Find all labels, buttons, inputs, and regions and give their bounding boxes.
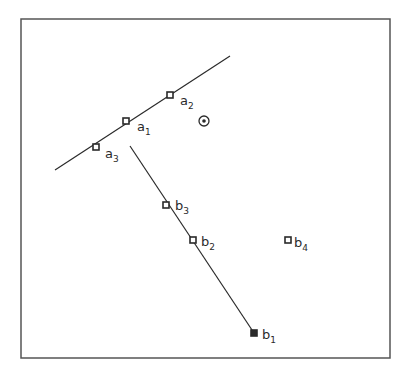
- point-label: a1: [137, 119, 151, 137]
- point-b1: b1: [251, 327, 276, 345]
- point-label: a2: [180, 93, 194, 111]
- point-label: b3: [175, 198, 189, 216]
- square-marker-icon: [285, 237, 291, 243]
- point-a3: a3: [93, 144, 119, 164]
- square-marker-icon: [93, 144, 99, 150]
- square-marker-icon: [123, 118, 129, 124]
- diagram-frame: [21, 19, 390, 358]
- point-b4: b4: [285, 235, 308, 253]
- lines-group: [55, 56, 254, 333]
- line-a: [55, 56, 230, 170]
- circle-dot-marker-icon: [199, 116, 209, 126]
- square-marker-icon: [163, 202, 169, 208]
- point-label: a3: [105, 146, 119, 164]
- diagram-canvas: a1a2a3b1b2b3b4: [0, 0, 409, 375]
- points-group: a1a2a3b1b2b3b4: [93, 92, 308, 345]
- square-marker-icon: [167, 92, 173, 98]
- square-marker-icon: [190, 237, 196, 243]
- point-b2: b2: [190, 234, 215, 252]
- point-label: b2: [201, 234, 215, 252]
- point-a2: a2: [167, 92, 194, 111]
- square-marker-icon: [251, 330, 257, 336]
- point-a1: a1: [123, 118, 151, 137]
- point-label: b4: [294, 235, 308, 253]
- point-label: b1: [262, 327, 276, 345]
